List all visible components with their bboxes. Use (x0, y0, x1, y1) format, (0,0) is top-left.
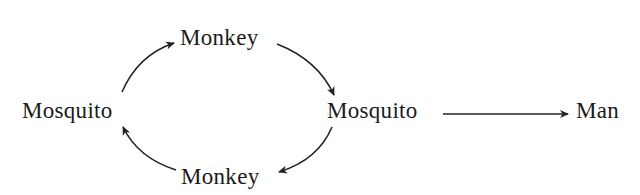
diagram-canvas: Mosquito Monkey Mosquito Monkey Man (0, 0, 640, 195)
arrow-monkey-bottom-to-mosquito-left (123, 127, 176, 170)
node-man: Man (576, 99, 619, 122)
node-mosquito-right: Mosquito (327, 99, 418, 122)
arrow-monkey-top-to-mosquito-right (277, 44, 334, 95)
node-monkey-top: Monkey (180, 26, 258, 49)
arrow-mosquito-left-to-monkey-top (122, 43, 174, 92)
node-mosquito-left: Mosquito (22, 99, 113, 122)
node-monkey-bottom: Monkey (181, 165, 259, 188)
arrow-mosquito-right-to-monkey-bottom (279, 127, 332, 172)
